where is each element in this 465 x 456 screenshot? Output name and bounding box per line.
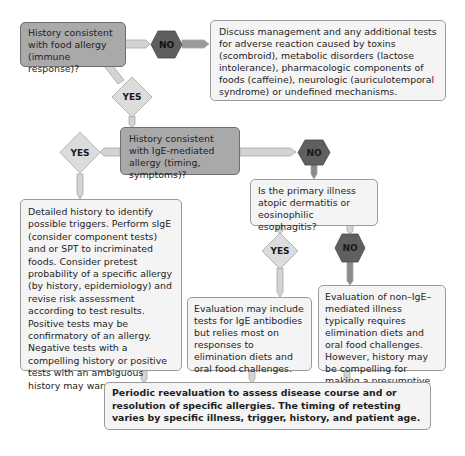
no-decision-2: NO xyxy=(297,139,331,166)
no-decision-1: NO xyxy=(150,30,183,59)
no-decision-3: NO xyxy=(334,233,366,263)
yes-label: YES xyxy=(270,246,289,256)
yes-decision-2: YES xyxy=(59,131,101,174)
outcome-non-immune-box: Discuss management and any additional te… xyxy=(210,20,446,101)
yes-label: YES xyxy=(70,148,89,158)
yes-label: YES xyxy=(122,92,141,102)
question-ige-mediated: History consistent with IgE-mediated all… xyxy=(120,127,240,175)
no-label: NO xyxy=(159,40,174,50)
question-food-allergy: History consistent with food allergy (im… xyxy=(20,22,126,67)
yes-decision-1: YES xyxy=(111,76,153,118)
outcome-atopic-box: Evaluation may include tests for IgE ant… xyxy=(187,297,312,371)
no-label: NO xyxy=(342,243,357,253)
question-atopic-eoe: Is the primary illness atopic dermatitis… xyxy=(250,179,378,226)
no-label: NO xyxy=(306,148,321,158)
final-reevaluation-box: Periodic reevaluation to assess disease … xyxy=(104,382,431,430)
outcome-non-ige-box: Evaluation of non–IgE–mediated illness t… xyxy=(318,285,446,371)
yes-decision-3: YES xyxy=(261,232,299,270)
outcome-ige-evaluation-box: Detailed history to identify possible tr… xyxy=(20,199,182,371)
